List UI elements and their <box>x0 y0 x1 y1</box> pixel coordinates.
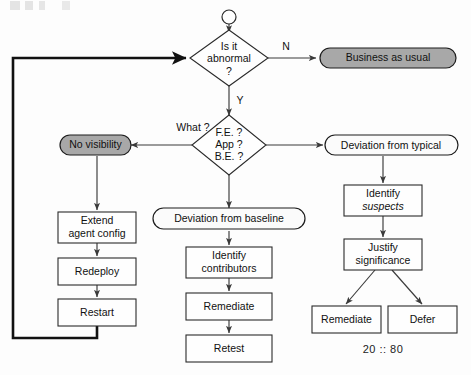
edge-justify-to-remediate <box>346 270 375 304</box>
node-justify-line2: significance <box>356 254 411 266</box>
node-deviation-baseline-label: Deviation from baseline <box>174 212 284 224</box>
node-suspects-line2: suspects <box>362 200 404 212</box>
node-deviation-typical-italic: typical <box>411 138 441 150</box>
decision-abnormal-line3: ? <box>226 65 232 77</box>
flowchart-svg: Is it abnormal ? N Y Business as usual F… <box>0 0 471 375</box>
edge-label-what: What ? <box>176 121 209 133</box>
node-suspects-line1: Identify <box>366 187 401 199</box>
decision-what-line2: App ? <box>215 138 243 150</box>
edge-justify-to-defer <box>392 270 422 304</box>
node-restart-label: Restart <box>80 306 114 318</box>
node-deviation-typical-label: Deviation from typical <box>341 138 441 150</box>
node-extend-line1: Extend <box>81 214 114 226</box>
annotation-ratio: 20 :: 80 <box>363 343 404 355</box>
node-retest-label: Retest <box>214 342 244 354</box>
node-contributors-line2: contributors <box>202 262 257 274</box>
decision-what-line1: F.E. ? <box>216 126 243 138</box>
node-remediate-right-label: Remediate <box>321 313 372 325</box>
node-deviation-baseline-plain: Deviation from <box>174 212 245 224</box>
flowchart-canvas: Is it abnormal ? N Y Business as usual F… <box>0 0 471 375</box>
node-no-visibility-label: No visibility <box>69 138 122 150</box>
node-business-as-usual-label: Business as usual <box>346 51 431 63</box>
edge-label-no: N <box>282 40 290 52</box>
edge-restart-feedback-loop <box>13 58 186 338</box>
decision-what-line3: B.E. ? <box>215 150 244 162</box>
node-contributors-line1: Identify <box>212 249 247 261</box>
start-node[interactable] <box>222 10 236 24</box>
node-justify-line1: Justify <box>368 241 399 253</box>
node-redeploy-label: Redeploy <box>75 265 120 277</box>
edge-label-yes: Y <box>236 94 243 106</box>
node-deviation-baseline-italic: baseline <box>245 212 284 224</box>
node-deviation-typical-plain: Deviation from <box>341 138 412 150</box>
decision-abnormal-line2: abnormal <box>207 52 251 64</box>
node-remediate-center-label: Remediate <box>204 300 255 312</box>
node-extend-line2: agent config <box>68 227 125 239</box>
decision-abnormal-line1: Is it <box>221 40 237 52</box>
node-defer-label: Defer <box>410 313 436 325</box>
